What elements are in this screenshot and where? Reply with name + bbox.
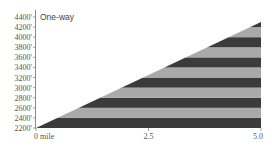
elevation-band: [36, 78, 261, 88]
elevation-band: [36, 37, 261, 47]
y-tick-label: 3200': [15, 74, 33, 83]
elevation-band: [36, 108, 261, 118]
y-tick-label: 4000': [15, 33, 33, 42]
y-axis-ticks: 2200'2400'2600'2800'3000'3200'3400'3600'…: [15, 13, 36, 133]
y-tick-label: 2400': [15, 114, 33, 123]
y-tick-label: 2200': [15, 124, 33, 133]
y-tick-label: 3000': [15, 84, 33, 93]
elevation-area: [36, 17, 261, 128]
x-tick-label: 0 mile: [34, 132, 55, 141]
y-tick-label: 4200': [15, 23, 33, 32]
x-tick-label: 2.5: [144, 132, 154, 141]
y-tick-label: 3600': [15, 53, 33, 62]
elevation-band: [36, 118, 261, 128]
elevation-chart: 2200'2400'2600'2800'3000'3200'3400'3600'…: [0, 0, 272, 152]
y-tick-label: 3800': [15, 43, 33, 52]
x-tick-label: 5.0: [253, 132, 263, 141]
y-tick-label: 3400': [15, 63, 33, 72]
elevation-band: [36, 98, 261, 108]
y-tick-label: 2600': [15, 104, 33, 113]
elevation-band: [36, 57, 261, 67]
y-tick-label: 2800': [15, 94, 33, 103]
elevation-band: [36, 67, 261, 77]
elevation-band: [36, 88, 261, 98]
y-tick-label: 4400': [15, 13, 33, 22]
elevation-band: [36, 27, 261, 37]
elevation-band: [36, 47, 261, 57]
x-axis-ticks: 0 mile2.55.0: [34, 128, 263, 141]
chart-title: One-way: [40, 12, 75, 22]
